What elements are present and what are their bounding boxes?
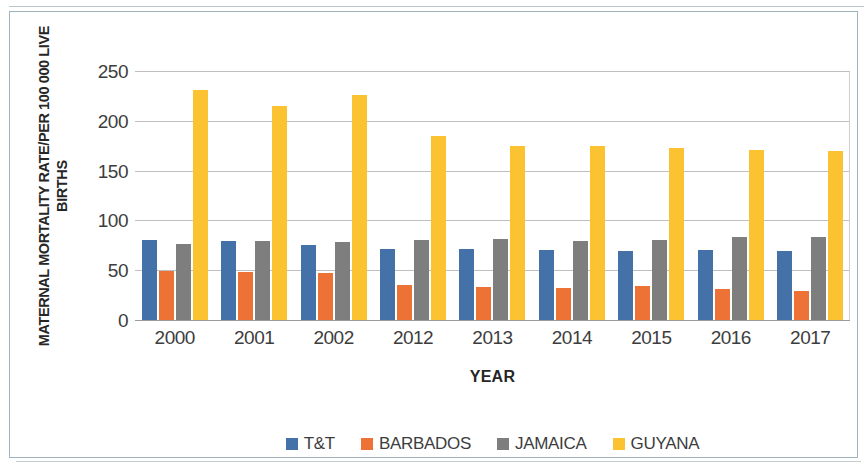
legend-item-barbados[interactable]: BARBADOS [361,434,471,454]
x-axis-line [135,320,850,321]
legend-label-t-t: T&T [304,434,335,454]
x-tick-label-2000: 2000 [135,327,214,357]
bar-barbados-2015[interactable] [635,286,650,321]
bar-group-2015 [612,72,691,321]
bar-barbados-2000[interactable] [159,271,174,321]
y-tick-label-250: 250 [8,61,128,83]
x-axis-tick-labels: 200020012002201220132014201520162017 [135,327,850,357]
x-axis-title: YEAR [135,368,850,386]
bar-guyana-2013[interactable] [510,146,525,321]
bar-barbados-2016[interactable] [715,289,730,321]
y-axis-tick-labels: 050100150200250 [0,0,128,465]
bar-t-t-2002[interactable] [301,245,316,321]
bar-t-t-2000[interactable] [142,240,157,321]
x-tick-label-2001: 2001 [214,327,293,357]
legend-item-jamaica[interactable]: JAMAICA [497,434,587,454]
x-tick-label-2015: 2015 [612,327,691,357]
chart-page: MATERNAL MORTALITY RATE/PER 100 000 LIVE… [0,0,868,465]
x-tick-label-2012: 2012 [373,327,452,357]
x-tick-label-2002: 2002 [294,327,373,357]
bar-t-t-2016[interactable] [698,250,713,321]
bar-guyana-2002[interactable] [352,95,367,321]
bar-jamaica-2000[interactable] [176,244,191,321]
bar-jamaica-2014[interactable] [573,241,588,321]
bar-jamaica-2012[interactable] [414,240,429,321]
bar-group-2012 [373,72,452,321]
bar-t-t-2015[interactable] [618,251,633,321]
bar-guyana-2014[interactable] [590,146,605,321]
bar-guyana-2000[interactable] [193,90,208,321]
legend-label-guyana: GUYANA [631,434,700,454]
bar-group-2013 [453,72,532,321]
bar-barbados-2002[interactable] [318,273,333,321]
bar-jamaica-2001[interactable] [255,241,270,321]
x-tick-label-2016: 2016 [691,327,770,357]
legend-swatch-barbados [361,438,373,450]
bar-jamaica-2002[interactable] [335,242,350,321]
bar-t-t-2014[interactable] [539,250,554,321]
y-tick-label-150: 150 [8,161,128,183]
chart-legend: T&TBARBADOSJAMAICAGUYANA [135,434,850,454]
bar-group-2000 [135,72,214,321]
legend-item-guyana[interactable]: GUYANA [613,434,700,454]
legend-swatch-t-t [286,438,298,450]
legend-label-jamaica: JAMAICA [515,434,587,454]
bar-group-2002 [294,72,373,321]
bar-jamaica-2015[interactable] [652,240,667,321]
bar-barbados-2012[interactable] [397,285,412,321]
bar-barbados-2017[interactable] [794,291,809,321]
bar-guyana-2017[interactable] [828,151,843,321]
bar-guyana-2001[interactable] [272,106,287,321]
bar-guyana-2012[interactable] [431,136,446,321]
legend-label-barbados: BARBADOS [379,434,471,454]
y-tick-label-0: 0 [8,310,128,332]
bar-group-2001 [214,72,293,321]
bar-t-t-2001[interactable] [221,241,236,321]
y-tick-label-200: 200 [8,111,128,133]
bar-barbados-2001[interactable] [238,272,253,321]
bar-barbados-2013[interactable] [476,287,491,321]
bar-jamaica-2016[interactable] [732,237,747,321]
y-tick-label-100: 100 [8,210,128,232]
bar-jamaica-2013[interactable] [493,239,508,321]
legend-item-t-t[interactable]: T&T [286,434,335,454]
bar-groups [135,72,850,321]
bar-group-2017 [771,72,850,321]
scan-top-border [9,6,864,7]
y-tick-label-50: 50 [8,260,128,282]
bar-jamaica-2017[interactable] [811,237,826,321]
x-tick-label-2014: 2014 [532,327,611,357]
bar-guyana-2016[interactable] [749,150,764,321]
x-tick-label-2013: 2013 [453,327,532,357]
legend-swatch-jamaica [497,438,509,450]
legend-swatch-guyana [613,438,625,450]
bar-barbados-2014[interactable] [556,288,571,321]
bar-group-2014 [532,72,611,321]
bar-group-2016 [691,72,770,321]
x-tick-label-2017: 2017 [771,327,850,357]
bar-guyana-2015[interactable] [669,148,684,321]
scan-bottom-border [16,461,861,462]
bar-t-t-2012[interactable] [380,249,395,321]
bar-t-t-2017[interactable] [777,251,792,321]
bar-t-t-2013[interactable] [459,249,474,321]
